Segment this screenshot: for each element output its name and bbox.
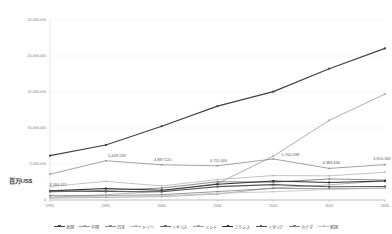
legend-item-3[interactable]: ドイツ (130, 224, 154, 230)
legend-swatch-icon (105, 224, 116, 229)
series-0 (49, 47, 386, 156)
legend-swatch-icon (193, 224, 204, 229)
y-axis-tick-1: 5,000,000 (2, 162, 46, 166)
y-axis-tick-3: 15,000,000 (2, 90, 46, 94)
legend-label: 日本 (117, 224, 125, 230)
y-axis-tick-5: 25,000,000 (2, 18, 46, 22)
chart-legend: 米国中国日本ドイツイギリスインドフランスイタリアカナダ韓国 (0, 219, 392, 234)
legend-swatch-icon (160, 224, 171, 229)
x-axis-tick-2000: 2000 (157, 204, 165, 208)
x-axis-tick-2005: 2005 (213, 204, 221, 208)
series-layer (49, 47, 386, 198)
y-axis-unit-label: 百万US$ (9, 176, 32, 185)
legend-item-5[interactable]: インド (193, 224, 217, 230)
y-axis-tick-2: 10,000,000 (2, 126, 46, 130)
line-chart: 05,000,00010,000,00015,000,00020,000,000… (0, 0, 392, 234)
axis-lines (50, 20, 385, 202)
legend-label: 中国 (91, 224, 99, 230)
data-label-1995: 5,449,138 (108, 152, 126, 157)
legend-label: 米国 (66, 224, 74, 230)
legend-item-0[interactable]: 米国 (54, 224, 74, 230)
data-label-2010: 5,700,098 (282, 151, 300, 156)
legend-label: カナダ (301, 224, 313, 230)
legend-swatch-icon (79, 224, 90, 229)
legend-item-2[interactable]: 日本 (105, 224, 125, 230)
x-axis-tick-1995: 1995 (102, 204, 110, 208)
legend-swatch-icon (54, 224, 65, 229)
legend-item-1[interactable]: 中国 (79, 224, 99, 230)
data-label-1991: 3,584,421 (49, 182, 67, 187)
y-axis-tick-0: 0 (2, 198, 46, 202)
legend-item-8[interactable]: カナダ (289, 224, 313, 230)
legend-item-6[interactable]: フランス (222, 224, 250, 230)
legend-swatch-icon (318, 224, 329, 229)
legend-item-9[interactable]: 韓国 (318, 224, 338, 230)
legend-item-7[interactable]: イタリア (256, 224, 284, 230)
data-label-2000: 4,887,520 (154, 156, 172, 161)
data-label-2005: 4,755,400 (210, 157, 228, 162)
x-axis-tick-2010: 2010 (269, 204, 277, 208)
x-axis-tick-2015: 2015 (325, 204, 333, 208)
x-axis-tick-2020: 2020 (381, 204, 389, 208)
data-label-2015: 4,389,436 (322, 160, 340, 165)
legend-item-4[interactable]: イギリス (160, 224, 188, 230)
legend-label: イギリス (172, 224, 188, 230)
legend-swatch-icon (256, 224, 267, 229)
legend-label: イタリア (268, 224, 284, 230)
legend-swatch-icon (222, 224, 233, 229)
data-label-2020: 4,910,580 (373, 155, 391, 160)
y-axis-tick-4: 20,000,000 (2, 54, 46, 58)
x-axis-tick-1991: 1991 (46, 204, 54, 208)
plot-area (0, 0, 392, 234)
legend-swatch-icon (130, 224, 141, 229)
legend-label: インド (205, 224, 217, 230)
series-4 (49, 178, 386, 192)
legend-label: ドイツ (142, 224, 154, 230)
legend-label: 韓国 (330, 224, 338, 230)
gridlines (50, 20, 385, 200)
legend-swatch-icon (289, 224, 300, 229)
legend-label: フランス (234, 224, 250, 230)
